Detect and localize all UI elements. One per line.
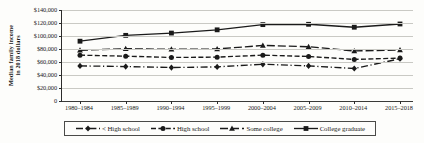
x-tick-label: 2010–2014 <box>339 104 367 112</box>
data-point-circle <box>169 55 174 60</box>
data-point-diamond <box>214 64 219 70</box>
data-point-circle <box>160 126 165 131</box>
gridline <box>62 23 413 24</box>
legend-label: High school <box>177 125 210 132</box>
legend-label: College graduate <box>320 125 365 132</box>
data-point-square <box>169 31 174 36</box>
y-tick-label: 0 <box>54 98 57 104</box>
x-tick-label: 2015–2018 <box>385 104 413 112</box>
plot-area <box>61 10 413 101</box>
y-axis-tick <box>59 23 62 24</box>
data-point-circle <box>78 53 83 58</box>
income-by-education-line-chart: Median family income in 2018 dollars 0$2… <box>0 0 424 143</box>
x-tick-label: 2000–2004 <box>248 104 276 112</box>
legend-label: Some college <box>246 125 282 132</box>
y-axis-title: Median family income in 2018 dollars <box>2 6 28 104</box>
data-point-square <box>303 126 308 131</box>
data-point-circle <box>306 54 311 59</box>
gridline <box>62 101 413 102</box>
gridline <box>62 88 413 89</box>
data-point-diamond <box>169 64 174 70</box>
y-axis-tick <box>59 88 62 89</box>
series-high-school <box>78 53 403 62</box>
y-axis-title-line-2: in 2018 dollars <box>15 24 22 85</box>
legend-item[interactable]: College graduate <box>293 124 365 133</box>
y-axis-tick <box>59 101 62 102</box>
y-axis-tick <box>59 75 62 76</box>
data-point-circle <box>260 53 265 58</box>
x-tick-label: 1985–1989 <box>111 104 139 112</box>
y-axis-tick <box>59 62 62 63</box>
legend-marker-square <box>293 124 319 133</box>
series-some-college <box>77 42 403 53</box>
y-tick-label: $120,000 <box>34 20 57 26</box>
data-point-square <box>352 25 357 30</box>
gridline <box>62 36 413 37</box>
y-tick-label: $20,000 <box>37 85 57 91</box>
y-axis-tick <box>59 36 62 37</box>
data-point-square <box>78 39 83 44</box>
series-college-graduate <box>78 22 403 44</box>
gridline <box>62 62 413 63</box>
x-tick-label: 1990–1994 <box>156 104 184 112</box>
y-tick-label: $140,000 <box>34 7 57 13</box>
data-point-diamond <box>85 125 90 131</box>
gridline <box>62 49 413 50</box>
y-tick-label: $100,000 <box>34 33 57 39</box>
y-tick-label: $60,000 <box>37 59 57 65</box>
data-point-square <box>215 27 220 32</box>
x-tick-label: 1980–1984 <box>65 104 93 112</box>
y-tick-label: $80,000 <box>37 46 57 52</box>
x-tick-label: 2005–2009 <box>294 104 322 112</box>
data-point-circle <box>123 54 128 59</box>
chart-legend: < High schoolHigh schoolSome collegeColl… <box>64 121 376 136</box>
gridline <box>62 10 413 11</box>
legend-marker-triangle <box>219 124 245 133</box>
gridline <box>62 75 413 76</box>
data-point-diamond <box>123 63 128 69</box>
legend-item[interactable]: High school <box>150 124 210 133</box>
legend-item[interactable]: Some college <box>219 124 282 133</box>
y-axis-tick <box>59 49 62 50</box>
x-tick-label: 1995–1999 <box>202 104 230 112</box>
data-point-circle <box>215 55 220 60</box>
legend-marker-circle <box>150 124 176 133</box>
data-point-circle <box>398 56 403 61</box>
data-point-diamond <box>77 63 82 69</box>
x-axis-tick-labels: 1980–19841985–19891990–19941995–19992000… <box>61 104 413 116</box>
legend-item[interactable]: < High school <box>75 124 140 133</box>
y-axis-tick <box>59 10 62 11</box>
y-tick-label: $40,000 <box>37 72 57 78</box>
data-point-diamond <box>306 63 311 69</box>
legend-marker-diamond <box>75 124 101 133</box>
legend-label: < High school <box>102 125 140 132</box>
y-axis-tick-labels: 0$20,000$40,000$60,000$80,000$100,000$12… <box>26 8 59 104</box>
data-point-diamond <box>352 65 357 71</box>
